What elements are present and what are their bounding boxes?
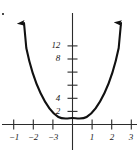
- parabola-figure: 12 8 4 2 −3 −2 −1 1 2 3: [0, 0, 139, 157]
- parabola-left-branch: [24, 23, 73, 119]
- y-tick-label-2: 2: [47, 107, 60, 116]
- x-tick-label-minus-3: −3: [44, 133, 62, 142]
- scan-artifact-speck: [2, 13, 4, 15]
- x-tick-label-1: 1: [86, 133, 98, 142]
- y-tick-label-4: 4: [47, 94, 60, 103]
- x-tick-label-2: 2: [106, 133, 118, 142]
- y-tick-label-12: 12: [46, 41, 60, 50]
- x-tick-label-minus-2: −2: [24, 133, 42, 142]
- y-tick-label-8: 8: [47, 54, 60, 63]
- x-tick-label-minus-1: −1: [5, 133, 23, 142]
- parabola-right-branch: [73, 23, 122, 119]
- x-tick-label-3: 3: [125, 133, 137, 142]
